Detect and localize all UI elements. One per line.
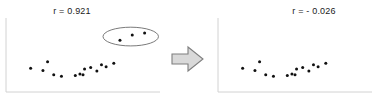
data-point [324,62,327,65]
data-point [78,73,81,76]
data-point [307,70,310,73]
scatter-plot-right [212,0,380,104]
data-point [105,65,108,68]
right-block-arrow-icon [170,44,206,74]
data-point [118,39,121,42]
data-point [89,66,92,69]
data-point [82,73,85,76]
data-point [295,67,298,70]
data-point [290,73,293,76]
data-point [286,74,289,77]
correlation-outlier-figure: r = 0.921 r = - 0.026 [0,0,382,104]
data-point [46,60,49,63]
scatter-panel-left: r = 0.921 [0,0,168,104]
data-point [131,34,134,37]
data-point [312,63,315,66]
scatter-panel-right: r = - 0.026 [212,0,380,104]
data-point [301,66,304,69]
data-point [100,63,103,66]
data-point [112,62,115,65]
data-point [272,75,275,78]
data-point [95,70,98,73]
data-point [264,73,267,76]
data-point [41,69,44,72]
data-point [258,60,261,63]
data-point [294,73,297,76]
data-point [74,74,77,77]
data-point [83,67,86,70]
data-point [52,73,55,76]
data-point [29,67,32,70]
data-point [317,65,320,68]
data-point [143,31,146,34]
scatter-plot-left [0,0,168,104]
data-point [253,69,256,72]
outlier-highlight-ellipse [103,27,158,46]
data-point [60,75,63,78]
data-point [241,67,244,70]
transform-arrow [170,44,206,74]
